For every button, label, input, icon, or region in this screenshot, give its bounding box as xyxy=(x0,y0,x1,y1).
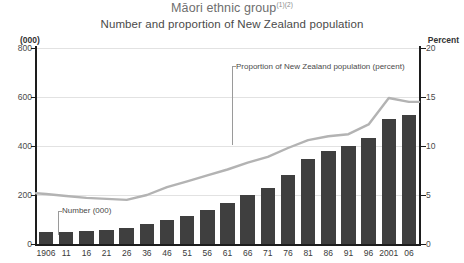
right-axis-line xyxy=(419,46,421,246)
bar xyxy=(160,220,175,245)
bar xyxy=(261,188,276,244)
bar xyxy=(59,232,74,244)
bar xyxy=(220,203,235,244)
right-axis-tick-label: 0 xyxy=(426,239,444,249)
bar xyxy=(341,146,356,244)
gridline xyxy=(36,97,419,98)
right-axis-tick-label: 10 xyxy=(426,141,444,151)
chart-container: Māori ethnic group(1)(2) Number and prop… xyxy=(0,0,464,263)
chart-title-text: Māori ethnic group xyxy=(171,1,276,15)
bar xyxy=(79,231,94,244)
bar xyxy=(180,216,195,244)
bottom-axis-line xyxy=(35,244,421,246)
right-axis-tick-mark xyxy=(421,195,426,196)
bar xyxy=(382,119,397,244)
right-axis-tick-mark xyxy=(421,244,426,245)
gridline xyxy=(36,48,419,49)
chart-subtitle: Number and proportion of New Zealand pop… xyxy=(0,18,464,30)
x-axis-tick-label: 91 xyxy=(344,248,353,258)
chart-title-superscript: (1)(2) xyxy=(276,1,293,8)
bar xyxy=(39,232,54,244)
right-axis-tick-mark xyxy=(421,146,426,147)
x-axis-tick-label: 61 xyxy=(223,248,232,258)
left-axis-tick-label: 400 xyxy=(14,141,32,151)
x-axis-tick-label: 11 xyxy=(62,248,71,258)
x-axis-tick-label: 56 xyxy=(203,248,212,258)
bar xyxy=(119,228,134,244)
right-axis-tick-label: 15 xyxy=(426,92,444,102)
x-axis-tick-label: 71 xyxy=(263,248,272,258)
number-leader-line-vertical xyxy=(58,211,59,235)
x-axis-tick-label: 36 xyxy=(142,248,151,258)
x-axis-tick-label: 46 xyxy=(162,248,171,258)
x-axis-tick-label: 1906 xyxy=(37,248,56,258)
bar xyxy=(301,159,316,244)
bar xyxy=(321,151,336,244)
bar xyxy=(99,230,114,244)
right-axis-tick-label: 20 xyxy=(426,43,444,53)
right-axis-tick-mark xyxy=(421,48,426,49)
x-axis-tick-label: 26 xyxy=(122,248,131,258)
bar xyxy=(402,115,417,244)
bar xyxy=(240,195,255,244)
bar xyxy=(281,175,296,244)
right-axis-tick-label: 5 xyxy=(426,190,444,200)
x-axis-tick-label: 51 xyxy=(182,248,191,258)
x-axis-tick-label: 21 xyxy=(102,248,111,258)
proportion-annotation: Proportion of New Zealand population (pe… xyxy=(236,62,405,71)
proportion-leader-line-vertical xyxy=(232,66,233,145)
x-axis-tick-label: 2001 xyxy=(379,248,398,258)
x-axis-tick-label: 76 xyxy=(283,248,292,258)
x-axis-tick-label: 96 xyxy=(364,248,373,258)
number-annotation: Number (000) xyxy=(62,206,111,215)
left-axis-line xyxy=(35,46,37,246)
right-axis-tick-mark xyxy=(421,97,426,98)
left-axis-tick-label: 600 xyxy=(14,92,32,102)
bar xyxy=(361,138,376,244)
left-axis-tick-label: 0 xyxy=(14,239,32,249)
left-axis-tick-label: 200 xyxy=(14,190,32,200)
bar xyxy=(200,210,215,244)
x-axis-tick-label: 66 xyxy=(243,248,252,258)
x-axis-tick-label: 86 xyxy=(324,248,333,258)
left-axis-tick-label: 800 xyxy=(14,43,32,53)
bar xyxy=(140,224,155,244)
x-axis-tick-label: 06 xyxy=(404,248,413,258)
x-axis-tick-label: 81 xyxy=(303,248,312,258)
x-axis-tick-label: 16 xyxy=(82,248,91,258)
chart-title: Māori ethnic group(1)(2) xyxy=(0,1,464,15)
